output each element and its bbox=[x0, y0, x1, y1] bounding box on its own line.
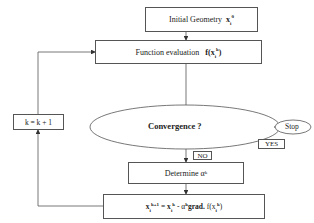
connector-lines bbox=[0, 0, 314, 223]
determine-alpha-box: Determine αk bbox=[128, 162, 244, 184]
convergence-label: Convergence ? bbox=[148, 121, 202, 131]
function-evaluation-box: Function evaluation f(xik) bbox=[95, 40, 262, 64]
update-formula: xik+1 = xik - αkgrad. f(xik) bbox=[146, 202, 222, 211]
update-step-box: xik+1 = xik - αkgrad. f(xik) bbox=[103, 194, 265, 219]
initial-geometry-math: xi0 bbox=[226, 15, 234, 24]
initial-geometry-label: Initial Geometry bbox=[169, 15, 222, 24]
increment-k-box: k = k + 1 bbox=[13, 114, 64, 130]
yes-edge-label: YES bbox=[258, 139, 285, 149]
initial-geometry-box: Initial Geometry xi0 bbox=[145, 7, 258, 32]
stop-label: Stop bbox=[285, 122, 299, 131]
function-evaluation-label: Function evaluation bbox=[136, 48, 200, 57]
increment-k-label: k = k + 1 bbox=[25, 118, 52, 127]
determine-alpha-label: Determine α bbox=[165, 169, 205, 178]
function-evaluation-math: f(xik) bbox=[205, 48, 221, 57]
no-edge-label: NO bbox=[193, 151, 212, 160]
